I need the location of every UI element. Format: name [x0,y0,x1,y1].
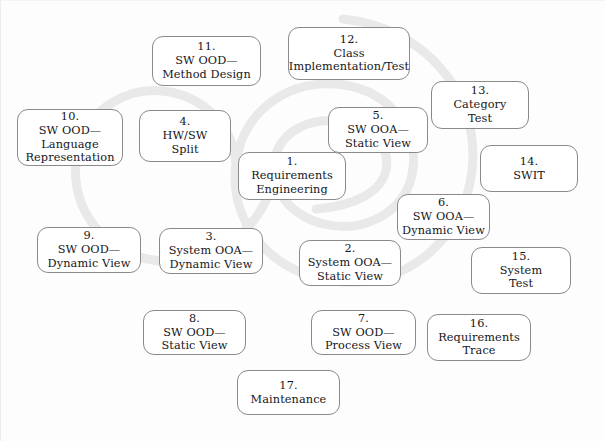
node-number: 10. [61,110,79,124]
node-label-line: Requirements [438,331,520,345]
node-label-line: System [500,264,542,278]
node-14[interactable]: 14.SWIT [480,145,578,192]
node-10[interactable]: 10.SW OOD—LanguageRepresentation [17,109,123,166]
node-number: 16. [470,317,488,331]
node-7[interactable]: 7.SW OOD—Process View [311,310,416,355]
node-number: 12. [340,33,358,47]
node-number: 4. [180,115,191,129]
node-label-line: Trace [462,344,495,358]
node-label-line: Dynamic View [170,258,253,272]
node-label-line: Dynamic View [402,224,485,238]
node-label-line: Test [509,277,533,291]
node-label-line: System OOA— [169,244,254,258]
node-11[interactable]: 11.SW OOD—Method Design [152,36,261,86]
node-number: 1. [287,155,298,169]
node-label-line: Requirements [251,169,333,183]
node-label-line: SWIT [513,169,545,183]
node-label-line: Static View [317,270,383,284]
node-label-line: Test [468,112,492,126]
node-number: 14. [520,155,538,169]
node-number: 9. [84,229,95,243]
node-label-line: Category [453,98,506,112]
node-9[interactable]: 9.SW OOD—Dynamic View [37,227,141,273]
node-label-line: SW OOD— [332,326,395,340]
diagram-canvas: 1.RequirementsEngineering2.System OOA—St… [0,0,605,441]
node-6[interactable]: 6.SW OOA—Dynamic View [397,194,490,240]
node-number: 2. [345,242,356,256]
node-label-line: Implementation/Test [289,60,409,74]
node-17[interactable]: 17.Maintenance [237,370,340,415]
node-number: 15. [512,250,530,264]
node-label-line: Process View [325,339,402,353]
node-number: 7. [358,312,369,326]
node-16[interactable]: 16.RequirementsTrace [427,314,531,361]
node-label-line: System OOA— [308,256,393,270]
node-label-line: Engineering [256,183,328,197]
node-15[interactable]: 15.SystemTest [471,247,571,294]
node-label-line: SW OOA— [413,210,475,224]
node-label-line: SW OOA— [347,123,409,137]
node-number: 5. [373,109,384,123]
node-number: 8. [189,312,200,326]
node-5[interactable]: 5.SW OOA—Static View [328,107,428,153]
node-label-line: Maintenance [251,393,327,407]
node-label-line: Static View [161,339,227,353]
node-1[interactable]: 1.RequirementsEngineering [238,152,346,200]
node-label-line: SW OOD— [58,243,121,257]
node-number: 11. [197,40,215,54]
node-3[interactable]: 3.System OOA—Dynamic View [159,228,263,274]
node-number: 6. [438,196,449,210]
node-label-line: Representation [25,151,114,165]
node-label-line: SW OOD— [163,326,226,340]
node-label-line: Method Design [162,68,251,82]
node-4[interactable]: 4.HW/SWSplit [139,110,231,162]
node-8[interactable]: 8.SW OOD—Static View [143,310,246,355]
node-2[interactable]: 2.System OOA—Static View [299,240,401,286]
node-13[interactable]: 13.CategoryTest [431,81,529,129]
node-number: 13. [471,84,489,98]
node-label-line: HW/SW [162,129,207,143]
node-number: 3. [206,230,217,244]
node-number: 17. [279,379,297,393]
node-label-line: Static View [345,137,411,151]
node-label-line: Language [41,138,98,152]
node-12[interactable]: 12.ClassImplementation/Test [288,27,410,80]
node-label-line: Class [333,47,364,61]
node-label-line: Dynamic View [48,257,131,271]
node-label-line: SW OOD— [39,124,102,138]
node-label-line: Split [171,143,198,157]
node-label-line: SW OOD— [175,54,238,68]
